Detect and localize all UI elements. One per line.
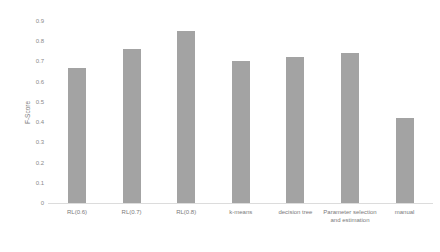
bar — [232, 61, 250, 203]
bar — [341, 53, 359, 203]
y-tick-label: 0.8 — [24, 38, 44, 44]
bar — [286, 57, 304, 203]
bar — [123, 49, 141, 203]
y-tick-label: 0.4 — [24, 119, 44, 125]
y-tick-label: 0.2 — [24, 160, 44, 166]
y-tick-label: 0 — [24, 200, 44, 206]
x-tick-label: k-means — [214, 209, 268, 217]
y-tick-label: 0.1 — [24, 180, 44, 186]
bar — [396, 118, 414, 203]
x-tick-label: RL(0.7) — [105, 209, 159, 217]
x-tick-label: manual — [378, 209, 432, 217]
x-tick-label: decision tree — [268, 209, 322, 217]
bar — [177, 31, 195, 203]
bar — [68, 68, 86, 203]
y-tick-label: 0.6 — [24, 79, 44, 85]
y-tick-label: 0.7 — [24, 58, 44, 64]
bar-chart: F-Score 00.10.20.30.40.50.60.70.80.9 RL(… — [0, 0, 440, 252]
x-tick-label: RL(0.6) — [50, 209, 104, 217]
y-tick-label: 0.5 — [24, 99, 44, 105]
x-tick-label: Parameter selection and estimation — [323, 209, 377, 224]
x-tick-label: RL(0.8) — [159, 209, 213, 217]
y-tick-label: 0.3 — [24, 139, 44, 145]
x-axis-baseline — [48, 203, 433, 204]
y-tick-label: 0.9 — [24, 18, 44, 24]
